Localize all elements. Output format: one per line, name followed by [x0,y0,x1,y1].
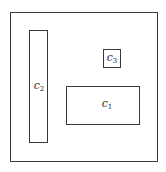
label-c2-sub: 2 [40,85,44,93]
label-c2: c2 [34,79,45,93]
label-c1-sub: 1 [108,103,112,111]
label-c3-sub: 3 [113,57,117,65]
label-c3: c3 [107,51,118,65]
label-c1: c1 [102,97,113,111]
